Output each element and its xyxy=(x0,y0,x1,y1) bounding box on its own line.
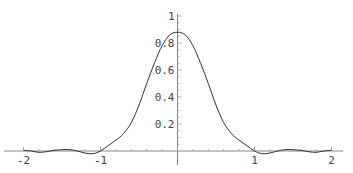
x-tick-label: 2 xyxy=(328,154,335,167)
x-tick-label: -2 xyxy=(17,154,30,167)
tick-labels: -2-1120.20.40.60.81 xyxy=(17,10,335,167)
line-chart: -2-1120.20.40.60.81 xyxy=(0,0,353,173)
y-tick-label: 1 xyxy=(168,10,175,23)
x-tick-label: -1 xyxy=(94,154,107,167)
y-tick-label: 0.8 xyxy=(155,37,175,50)
y-tick-label: 0.6 xyxy=(155,64,175,77)
ticks xyxy=(24,16,332,151)
x-tick-label: 1 xyxy=(251,154,258,167)
y-tick-label: 0.2 xyxy=(155,118,175,131)
y-tick-label: 0.4 xyxy=(155,91,175,104)
